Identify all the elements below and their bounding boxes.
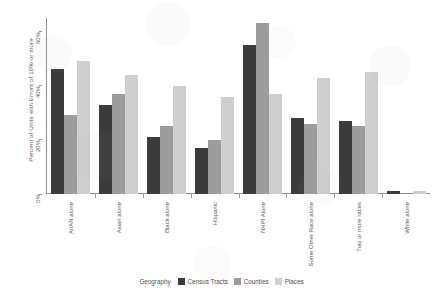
bar [173,86,186,194]
bar [64,115,77,194]
y-tick: 20% [20,135,42,145]
y-tick: 40% [20,81,42,91]
plot-area: 0%20%40%60% [46,18,430,194]
bar-group [191,18,239,194]
x-axis-label-cell: Two or more races [335,200,383,266]
y-tick: 0% [20,189,42,199]
bar-group [47,18,95,194]
legend-swatch [275,278,282,285]
bar-group [143,18,191,194]
bar [195,148,208,194]
bar [160,126,173,194]
bar [317,78,330,194]
bars-layer [47,18,430,194]
x-tick-mark [239,194,240,198]
x-tick-mark [334,194,335,198]
bar [77,61,90,194]
x-axis-label-cell: AI/AN alone [47,200,95,266]
bar [339,121,352,194]
x-axis-label: NHPI Alone [260,202,267,233]
legend-label: Census Tracts [188,278,228,285]
bar [99,105,112,194]
bar [304,124,317,194]
x-axis-label-cell: Hispanic [191,200,239,266]
bar-group [95,18,143,194]
bar [51,69,64,194]
x-axis-labels: AI/AN aloneAsian aloneBlack aloneHispani… [47,200,431,266]
x-tick-mark [382,194,383,198]
x-axis-label: Two or more races [356,202,363,252]
bar [365,72,378,194]
bar-group [239,18,287,194]
y-tick-label: 40% [33,86,43,98]
x-axis-label: White alone [404,202,411,234]
y-tick-label: 20% [33,140,43,152]
bar [208,140,221,194]
x-tick-mark [95,194,96,198]
y-tick: 60% [20,27,42,37]
bar-chart: Percent of Units with Errors of 10% or m… [0,0,443,300]
x-axis-label: Hispanic [212,202,219,225]
legend-item[interactable]: Census Tracts [178,278,228,285]
legend-title: Geography [139,278,170,285]
x-axis-label-cell: NHPI Alone [239,200,287,266]
x-axis-label-cell: Some Other Race alone [287,200,335,266]
legend-label: Places [285,278,304,285]
bar [269,94,282,194]
x-axis-label: Asian alone [116,202,123,233]
legend-swatch [178,278,185,285]
x-tick-mark [143,194,144,198]
bar-group [382,18,430,194]
y-tick-mark [39,85,42,86]
y-tick-label: 0% [33,194,43,203]
bar [352,126,365,194]
bar [291,118,304,194]
bar [125,75,138,194]
bar [243,45,256,194]
y-tick-mark [39,31,42,32]
bar-group [334,18,382,194]
chart-legend: Geography Census TractsCountiesPlaces [0,278,443,285]
legend-item[interactable]: Places [275,278,304,285]
y-tick-mark [39,139,42,140]
bar [147,137,160,194]
bar-group [286,18,334,194]
bar [413,191,426,194]
bar [387,191,400,194]
x-axis-label-cell: Black alone [143,200,191,266]
y-tick-label: 60% [33,32,43,44]
x-axis-label: Black alone [164,202,171,233]
bar [221,97,234,194]
legend-item[interactable]: Counties [234,278,269,285]
y-tick-mark [39,194,42,195]
bar [112,94,125,194]
x-axis-label-cell: White alone [383,200,431,266]
x-axis-label-cell: Asian alone [95,200,143,266]
x-tick-mark [286,194,287,198]
x-axis-label: Some Other Race alone [308,202,315,266]
x-tick-mark [191,194,192,198]
x-axis-label: AI/AN alone [68,202,75,234]
legend-items: Census TractsCountiesPlaces [178,278,304,285]
legend-label: Counties [244,278,269,285]
bar [256,23,269,194]
legend-swatch [234,278,241,285]
